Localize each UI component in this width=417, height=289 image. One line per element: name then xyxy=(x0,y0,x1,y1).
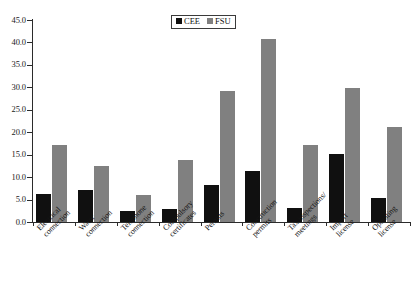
bar-group xyxy=(33,20,75,222)
y-axis-tick-label: 10.0 xyxy=(0,173,26,182)
bar-chart: CEE FSU 45.040.035.030.025.020.015.010.0… xyxy=(0,0,417,289)
bar-group xyxy=(159,20,201,222)
bar-group xyxy=(326,20,368,222)
bar-fsu xyxy=(345,88,360,222)
x-axis-labels: ElectricalconnectionWaterconnectionTelep… xyxy=(0,226,417,289)
bar-group xyxy=(368,20,410,222)
y-axis-tick-label: 5.0 xyxy=(0,195,26,204)
y-axis-tick-label: 0.0 xyxy=(0,218,26,227)
y-axis-tick-label: 15.0 xyxy=(0,150,26,159)
bar-group xyxy=(117,20,159,222)
y-axis-tick-label: 20.0 xyxy=(0,128,26,137)
y-axis-tick-label: 45.0 xyxy=(0,16,26,25)
y-axis-tick-label: 35.0 xyxy=(0,60,26,69)
plot-area xyxy=(33,20,410,222)
y-axis-tick-label: 40.0 xyxy=(0,38,26,47)
bar-group xyxy=(201,20,243,222)
y-axis-tick-label: 30.0 xyxy=(0,83,26,92)
bar-group xyxy=(242,20,284,222)
bar-fsu xyxy=(220,91,235,222)
bar-fsu xyxy=(261,39,276,222)
y-axis-tick-label: 25.0 xyxy=(0,105,26,114)
bar-group xyxy=(75,20,117,222)
